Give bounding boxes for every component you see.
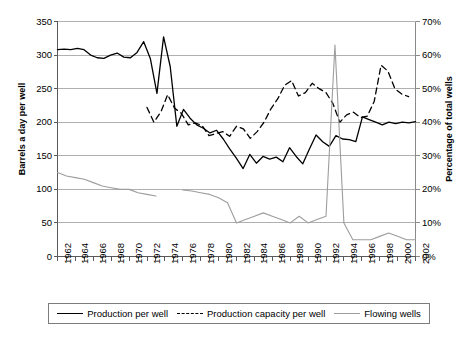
x-axis-ticklabel: 1964 — [79, 242, 90, 263]
x-axis-ticklabel: 1986 — [276, 242, 287, 263]
x-axis-ticklabel: 1968 — [115, 242, 126, 263]
x-axis-ticklabel: 1962 — [62, 242, 73, 263]
chart-figure: Barrels a day per well Percentage of tot… — [0, 0, 473, 341]
x-axis-ticklabel: 1998 — [384, 242, 395, 263]
x-axis-ticklabel: 1972 — [151, 242, 162, 263]
series-line — [58, 37, 416, 169]
x-axis-ticklabel: 2002 — [420, 242, 431, 263]
y-axis-left-ticklabel: 350 — [22, 16, 52, 27]
x-axis-ticklabel: 1994 — [348, 242, 359, 263]
x-axis-ticklabel: 1974 — [169, 242, 180, 263]
x-axis-ticklabel: 1990 — [312, 242, 323, 263]
series-line — [147, 65, 409, 138]
series-line — [183, 45, 416, 240]
chart-legend: Production per wellProduction capacity p… — [48, 303, 430, 324]
y-axis-left-ticklabel: 300 — [22, 49, 52, 60]
axis-ticks — [54, 22, 420, 261]
y-axis-right-title: Percentage of total wells — [444, 59, 454, 199]
y-axis-left-ticklabel: 50 — [22, 217, 52, 228]
y-axis-right-ticklabel: 70% — [422, 16, 452, 27]
y-axis-left-ticklabel: 200 — [22, 116, 52, 127]
y-axis-left-ticklabel: 150 — [22, 150, 52, 161]
x-axis-ticklabel: 1970 — [133, 242, 144, 263]
legend-swatch-icon — [334, 309, 360, 318]
y-axis-right-ticklabel: 60% — [422, 49, 452, 60]
series-line — [58, 173, 156, 197]
y-axis-right-ticklabel: 40% — [422, 116, 452, 127]
x-axis-ticklabel: 1988 — [294, 242, 305, 263]
x-axis-ticklabel: 1984 — [258, 242, 269, 263]
x-axis-ticklabel: 1992 — [330, 242, 341, 263]
y-axis-right-ticklabel: 30% — [422, 150, 452, 161]
y-axis-left-ticklabel: 100 — [22, 183, 52, 194]
x-axis-ticklabel: 1996 — [366, 242, 377, 263]
y-axis-left-title: Barrels a day per well — [17, 59, 27, 199]
data-series-layer — [58, 37, 416, 240]
legend-entry: Production capacity per well — [177, 308, 325, 319]
y-axis-left-ticklabel: 250 — [22, 83, 52, 94]
y-axis-left-ticklabel: 0 — [22, 251, 52, 262]
legend-swatch-icon — [177, 309, 203, 318]
gridlines — [58, 22, 416, 223]
x-axis-ticklabel: 1976 — [187, 242, 198, 263]
x-axis-ticklabel: 1982 — [241, 242, 252, 263]
plot-area — [0, 0, 473, 341]
x-axis-ticklabel: 1978 — [205, 242, 216, 263]
x-axis-ticklabel: 2000 — [402, 242, 413, 263]
legend-label: Production per well — [87, 308, 168, 319]
legend-entry: Production per well — [57, 308, 168, 319]
legend-row: Production per wellProduction capacity p… — [49, 304, 429, 323]
y-axis-right-ticklabel: 20% — [422, 183, 452, 194]
y-axis-right-ticklabel: 50% — [422, 83, 452, 94]
legend-swatch-icon — [57, 309, 83, 318]
x-axis-ticklabel: 1966 — [97, 242, 108, 263]
legend-label: Flowing wells — [364, 308, 421, 319]
y-axis-right-ticklabel: 10% — [422, 217, 452, 228]
legend-entry: Flowing wells — [334, 308, 421, 319]
x-axis-ticklabel: 1980 — [223, 242, 234, 263]
legend-label: Production capacity per well — [207, 308, 325, 319]
axis-lines — [58, 22, 416, 257]
